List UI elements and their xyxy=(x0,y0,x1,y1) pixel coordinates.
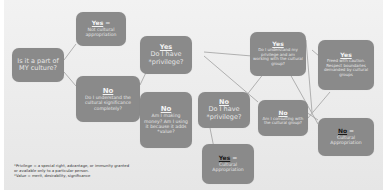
node-head-line: Yes = xyxy=(92,20,110,27)
footnote-definitions: *Privilege = a special right, advantage,… xyxy=(14,164,174,179)
node-text: Cultural Appropriation xyxy=(321,135,371,146)
node-text: Do I understand the cultural significanc… xyxy=(79,95,137,111)
node-head-line: Yes = xyxy=(219,155,237,162)
node-yes-have-privilege: Yes Do I have *privilege? xyxy=(140,36,192,74)
node-head-suffix: = xyxy=(230,154,237,161)
node-head: Yes xyxy=(92,19,103,26)
node-yes-cultural-appropriation: Yes = Cultural Appropriation xyxy=(202,144,254,184)
node-text: Freed with caution. Respect boundaries d… xyxy=(321,59,371,77)
node-is-it-my-culture: Is it a part of MY culture? xyxy=(12,48,64,82)
node-head-suffix: = xyxy=(103,19,110,26)
node-yes-working-with-group: Yes Do I understand my privilege and am … xyxy=(250,32,306,76)
node-head-suffix: = xyxy=(347,127,354,134)
node-head: No xyxy=(338,127,347,134)
node-text: Cultural Appropriation xyxy=(205,162,251,173)
node-yes-not-appropriation: Yes = Not cultural appropriation xyxy=(76,12,126,46)
node-text: Am I making money? Am I using it because… xyxy=(143,113,189,134)
node-head: No xyxy=(161,105,172,113)
footnote-line: *Value = merit, desirability, significan… xyxy=(14,174,174,179)
node-yes-freed-with-caution: Yes Freed with caution. Respect boundari… xyxy=(318,40,374,90)
node-head-line: No = xyxy=(338,128,354,135)
node-text: Do I have *privilege? xyxy=(201,106,247,121)
node-text: Do I understand my privilege and am work… xyxy=(253,48,303,66)
node-no-consulting-group: No Am I consulting with the cultural gro… xyxy=(258,100,308,136)
node-text: Not cultural appropriation xyxy=(79,27,123,38)
node-no-making-money: No Am I making money? Am I using it beca… xyxy=(140,92,192,148)
node-head: Yes xyxy=(219,154,230,161)
node-head: No xyxy=(103,87,114,95)
node-text: Do I have *privilege? xyxy=(143,51,189,66)
node-text: Is it a part of MY culture? xyxy=(15,58,61,73)
node-text: Am I consulting with the cultural group? xyxy=(261,117,305,126)
node-no-have-privilege: No Do I have *privilege? xyxy=(198,92,250,128)
node-no-understand-significance: No Do I understand the cultural signific… xyxy=(76,76,140,122)
node-no-cultural-appropriation: No = Cultural Appropriation xyxy=(318,118,374,156)
